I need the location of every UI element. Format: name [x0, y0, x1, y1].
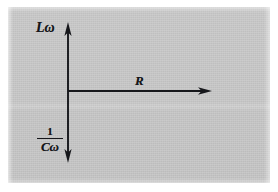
fraction-denominator: Cω — [36, 140, 64, 154]
figure-canvas: Lω R 1 Cω — [0, 0, 278, 192]
fraction-numerator: 1 — [36, 126, 64, 138]
axis-label-resistance: R — [135, 74, 144, 87]
axis-label-inductive-reactance: Lω — [36, 21, 55, 35]
axis-label-capacitive-reactance: 1 Cω — [36, 126, 64, 154]
